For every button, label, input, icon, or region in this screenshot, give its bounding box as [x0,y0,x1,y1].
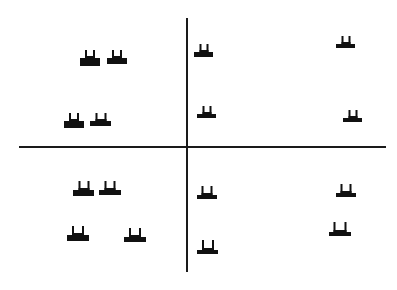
underline-bar [64,121,84,128]
u-stroke-icon [129,228,141,237]
underline-bar [99,190,121,195]
u-glyph [336,36,355,48]
u-glyph [343,110,362,122]
underline-bar [124,237,146,242]
u-glyph [194,44,213,57]
underline-bar [329,232,351,236]
u-glyph [73,181,94,196]
u-stroke-icon [348,110,357,118]
u-glyph [90,113,111,126]
u-stroke-icon [334,222,347,232]
u-glyph [336,184,356,197]
figure-canvas: Top Left Quadrant Top Right Quadrant Bot… [0,0,397,290]
u-stroke-icon [95,113,106,121]
u-stroke-icon [72,226,84,235]
u-stroke-icon [85,50,95,58]
underline-bar [194,52,213,57]
u-stroke-icon [69,113,79,121]
u-glyph [197,240,218,254]
underline-bar [107,58,127,64]
u-stroke-icon [78,181,89,190]
underline-bar [80,58,100,66]
u-glyph [99,181,121,195]
u-stroke-icon [202,106,211,114]
u-glyph [80,50,100,66]
u-stroke-icon [105,181,116,190]
u-glyph [67,226,89,241]
underline-bar [336,193,356,197]
u-glyph [107,50,127,64]
u-stroke-icon [341,184,352,193]
u-stroke-icon [202,186,213,195]
underline-bar [336,44,355,48]
u-glyph [124,228,146,242]
horizontal-divider-line [19,146,386,148]
u-stroke-icon [341,36,350,44]
u-glyph [197,106,216,118]
underline-bar [90,121,111,126]
underline-bar [197,250,218,254]
u-stroke-icon [112,50,122,58]
u-glyph [197,186,217,199]
u-glyph [64,113,84,128]
underline-bar [197,114,216,118]
u-stroke-icon [202,240,214,250]
underline-bar [73,190,94,196]
u-glyph [329,222,351,236]
underline-bar [67,235,89,241]
u-stroke-icon [199,44,208,52]
vertical-divider-line [186,18,188,272]
underline-bar [197,195,217,199]
underline-bar [343,118,362,122]
